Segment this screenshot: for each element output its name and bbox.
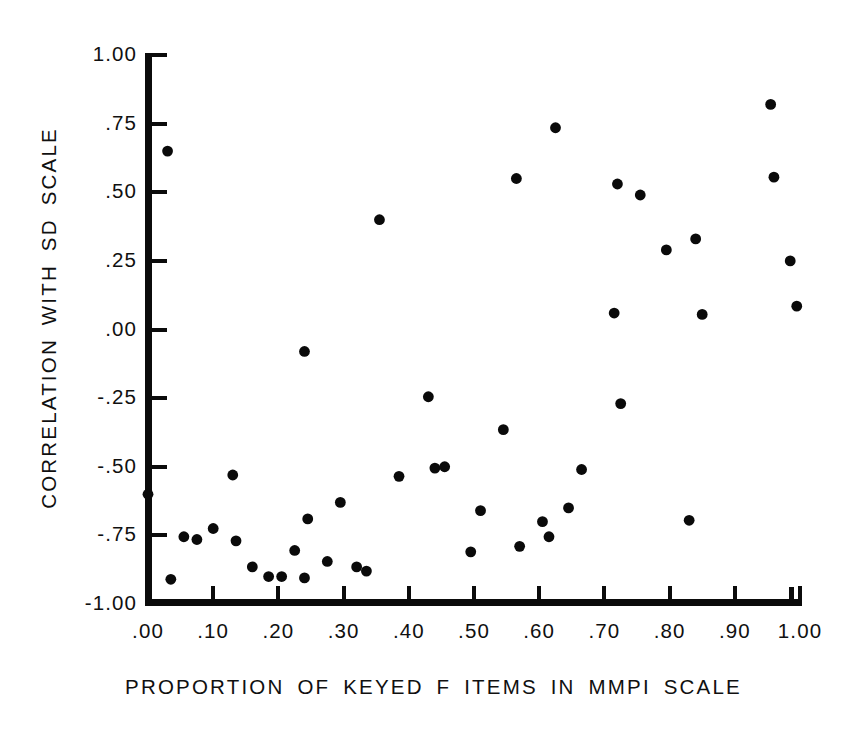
data-point (514, 541, 525, 552)
plot-area (148, 55, 800, 604)
data-point (612, 179, 623, 190)
data-point (769, 172, 780, 183)
data-point (498, 424, 509, 435)
data-point (765, 99, 776, 110)
y-tick-label: .25 (37, 248, 137, 272)
data-point (576, 464, 587, 475)
data-point (361, 566, 372, 577)
y-tick-label: 1.00 (37, 42, 137, 66)
y-tick-label: -.25 (37, 385, 137, 409)
y-tick-label: .75 (37, 111, 137, 135)
data-point (276, 571, 287, 582)
y-tick-label: .50 (37, 179, 137, 203)
data-point (192, 534, 203, 545)
data-point (162, 146, 173, 157)
data-point (208, 523, 219, 534)
data-point (537, 516, 548, 527)
data-point-layer (148, 55, 800, 604)
data-point (563, 503, 574, 514)
data-point (423, 391, 434, 402)
x-tick-label: 1.00 (755, 619, 845, 643)
data-point (322, 556, 333, 567)
y-tick-label: -.75 (37, 522, 137, 546)
data-point (785, 255, 796, 266)
data-point (635, 190, 646, 201)
data-point (439, 461, 450, 472)
y-tick-label: -1.00 (37, 591, 137, 615)
data-point (544, 531, 555, 542)
data-point (690, 234, 701, 245)
data-point (394, 471, 405, 482)
data-point (609, 308, 620, 319)
data-point (791, 301, 802, 312)
data-point (465, 546, 476, 557)
data-point (550, 122, 561, 133)
data-point (165, 574, 176, 585)
data-point (231, 535, 242, 546)
y-tick-label: .00 (37, 317, 137, 341)
data-point (143, 489, 154, 500)
data-point (227, 470, 238, 481)
data-point (661, 244, 672, 255)
data-point (475, 505, 486, 516)
data-point (615, 398, 626, 409)
y-tick-label: -.50 (37, 454, 137, 478)
data-point (374, 214, 385, 225)
data-point (289, 545, 300, 556)
data-point (351, 562, 362, 573)
data-point (429, 463, 440, 474)
data-point (684, 515, 695, 526)
data-point (299, 346, 310, 357)
data-point (697, 309, 708, 320)
scatter-plot-figure: CORRELATION WITH SD SCALE 1.00.75.50.25.… (0, 0, 867, 744)
data-point (299, 573, 310, 584)
data-point (302, 514, 313, 525)
data-point (335, 497, 346, 508)
data-point (247, 562, 258, 573)
data-point (178, 531, 189, 542)
x-axis-title: PROPORTION OF KEYED F ITEMS IN MMPI SCAL… (0, 675, 867, 699)
data-point (263, 571, 274, 582)
data-point (511, 173, 522, 184)
